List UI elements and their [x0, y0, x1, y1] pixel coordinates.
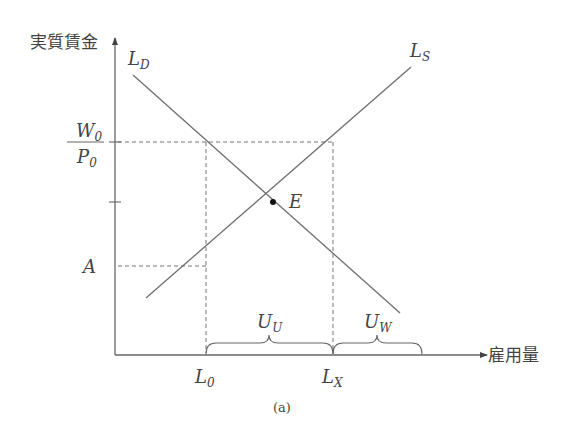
uw-label: UW — [364, 311, 393, 335]
equilibrium-point — [270, 199, 276, 205]
uu-brace — [206, 335, 333, 354]
wage-numerator-label: W0 — [76, 120, 103, 144]
supply-label: LS — [409, 40, 430, 64]
price-denominator-label: P0 — [76, 146, 97, 170]
l0-label: L0 — [194, 366, 215, 390]
y-axis-label: 実質賃金 — [30, 32, 98, 52]
uu-label: UU — [257, 311, 283, 335]
lx-label: LX — [321, 366, 343, 390]
uw-brace — [333, 335, 422, 354]
figure-caption: (a) — [273, 400, 291, 415]
supply-curve — [146, 67, 411, 298]
x-axis-label: 雇用量 — [488, 345, 539, 365]
labor-market-diagram: 実質賃金 雇用量 E LD LS W0 P0 A L0 LX UU UW (a) — [0, 0, 569, 434]
equilibrium-label: E — [288, 191, 302, 212]
a-label: A — [81, 256, 96, 277]
demand-label: LD — [127, 48, 150, 72]
